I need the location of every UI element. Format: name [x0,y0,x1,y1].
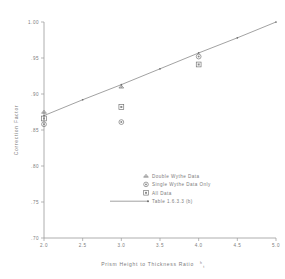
x-axis-title: Prism Height to Thickness Ratio h t [101,259,205,269]
trend-line-table-1633b [43,21,277,116]
y-tick-label: .85 [31,128,39,133]
marker-square-fill [43,117,45,119]
trend-point [159,68,161,70]
trend-point [236,37,238,39]
x-tick-label: 3.0 [117,243,125,248]
axes [44,22,276,238]
legend-label: Single Wythe Data Only [152,182,211,187]
y-tick-label: .70 [31,236,39,241]
trend-point [275,21,277,23]
x-tick-label: 5.0 [272,243,280,248]
legend-label: All Data [152,191,172,196]
chart-legend: Double Wythe DataSingle Wythe Data OnlyA… [110,174,211,204]
marker-circle-fill [120,121,122,123]
x-tick-label: 2.5 [79,243,87,248]
trend-point [82,99,84,101]
marker-square-fill [198,63,200,65]
x-tick-label: 4.5 [233,243,241,248]
x-axis-title-main: Prism Height to Thickness Ratio [101,261,194,267]
data-markers [42,54,201,126]
marker-circle-fill [198,56,200,58]
y-tick-label: .75 [31,200,39,205]
x-tick-label: 2.0 [40,243,48,248]
marker-square-fill [120,106,122,108]
legend-marker-square-fill [145,192,147,194]
legend-label: Double Wythe Data [152,174,199,179]
y-axis-title: Correction Factor [13,105,19,156]
y-tick-label: 1.00 [28,20,39,25]
marker-circle-fill [43,123,45,125]
correction-factor-scatter-chart: .70.75.80.85.90.951.00 2.02.53.03.54.04.… [0,0,285,279]
y-tick-label: .80 [31,164,39,169]
y-tick-label: .90 [31,92,39,97]
legend-marker-circle-fill [145,183,147,185]
x-tick-label: 3.5 [156,243,164,248]
legend-line-dot [147,200,149,202]
y-tick-label: .95 [31,56,39,61]
trend-point [198,52,200,54]
chart-container: .70.75.80.85.90.951.00 2.02.53.03.54.04.… [0,0,285,279]
y-axis-ticks: .70.75.80.85.90.951.00 [28,20,44,241]
legend-label: Table 1.6.3.3 (b) [152,199,193,204]
x-axis-title-denominator: t [203,265,205,269]
x-axis-ticks: 2.02.53.03.54.04.55.0 [40,238,280,248]
x-tick-label: 4.0 [195,243,203,248]
